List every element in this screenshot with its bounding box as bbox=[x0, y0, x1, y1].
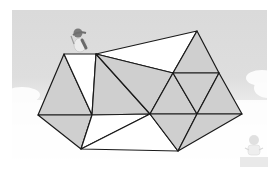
figure-scene bbox=[0, 0, 277, 178]
triangle-figure bbox=[0, 0, 277, 178]
